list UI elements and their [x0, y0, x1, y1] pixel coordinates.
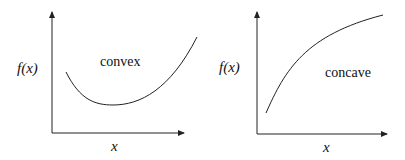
x-axis-label: x [322, 139, 330, 155]
y-axis-label: f(x) [219, 59, 240, 76]
convex-curve [66, 37, 197, 105]
convex-plot: convex f(x) x [17, 12, 197, 154]
convex-label: convex [100, 54, 140, 69]
x-axis-label: x [110, 138, 118, 154]
y-axis-label: f(x) [17, 60, 38, 77]
concave-curve [266, 15, 383, 113]
convex-concave-diagram: convex f(x) x concave f(x) x [0, 0, 405, 160]
concave-label: concave [325, 65, 371, 80]
concave-plot: concave f(x) x [219, 12, 387, 155]
